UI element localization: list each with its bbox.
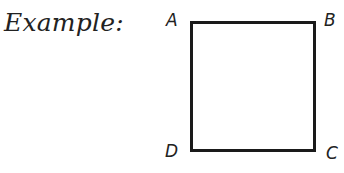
square-abcd (190, 21, 316, 152)
vertex-label-d: D (165, 141, 178, 161)
vertex-label-a: A (166, 10, 178, 30)
vertex-label-b: B (324, 10, 336, 30)
vertex-label-c: C (326, 143, 338, 163)
example-caption: Example: (4, 8, 124, 37)
